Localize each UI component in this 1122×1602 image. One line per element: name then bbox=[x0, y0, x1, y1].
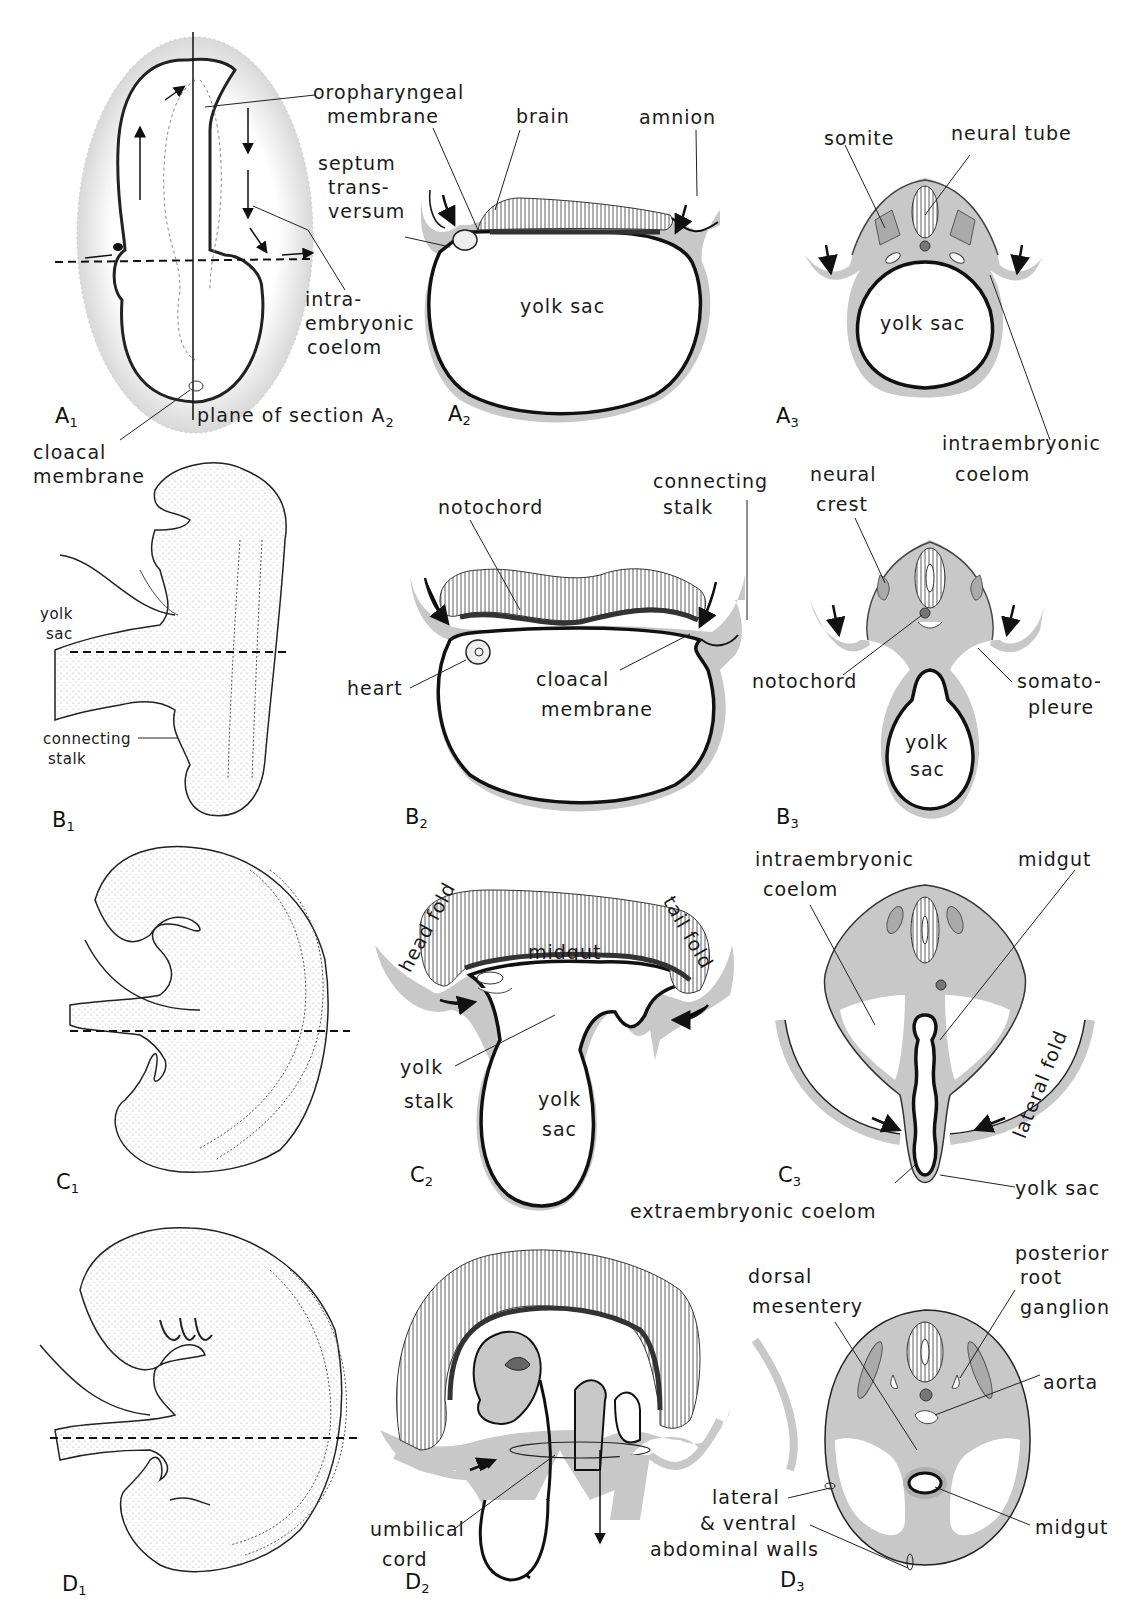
label-ganglion: ganglion bbox=[1020, 1296, 1110, 1319]
label-mesentery: mesentery bbox=[752, 1295, 863, 1318]
label-and-ventral: & ventral bbox=[700, 1512, 797, 1535]
label-crest-b3: crest bbox=[816, 493, 868, 516]
panel-b1-drawing bbox=[55, 463, 288, 816]
panel-c3-drawing bbox=[780, 870, 1090, 1187]
label-midgut-c3: midgut bbox=[1018, 848, 1091, 871]
label-sac-b3: sac bbox=[910, 758, 945, 781]
label-notochord-b3: notochord bbox=[752, 670, 857, 693]
label-cloacal-membrane: membrane bbox=[33, 465, 145, 488]
label-intraembryonic: intraembryonic bbox=[942, 432, 1101, 455]
label-yolk-sac-c3: yolk sac bbox=[1015, 1177, 1100, 1200]
label-midgut-c2: midgut bbox=[528, 941, 601, 964]
panel-d3-drawing bbox=[755, 1290, 1040, 1570]
panel-id-c2: C2 bbox=[410, 1163, 433, 1189]
label-abdominal-walls: abdominal walls bbox=[650, 1538, 819, 1561]
label-somato: somato- bbox=[1017, 670, 1102, 693]
embryo-folding-figure: A1 A2 A3 B1 B2 B3 C1 C2 C3 D1 D2 D3 orop… bbox=[0, 0, 1122, 1602]
label-cord: cord bbox=[382, 1548, 428, 1571]
label-umbilical: umbilical bbox=[370, 1518, 465, 1541]
label-midgut-d3: midgut bbox=[1035, 1516, 1108, 1539]
label-posterior: posterior bbox=[1015, 1242, 1109, 1265]
panel-b2-drawing bbox=[410, 500, 747, 811]
panel-id-b1: B1 bbox=[52, 808, 75, 834]
label-yolk-c2: yolk bbox=[538, 1088, 581, 1111]
panel-id-a2: A2 bbox=[448, 402, 471, 428]
label-root: root bbox=[1020, 1266, 1062, 1289]
label-aorta: aorta bbox=[1043, 1371, 1098, 1394]
panel-id-d1: D1 bbox=[62, 1572, 86, 1598]
panel-id-b2: B2 bbox=[405, 805, 428, 831]
panel-a3-drawing bbox=[805, 145, 1050, 440]
label-brain: brain bbox=[516, 105, 570, 128]
panel-a2-drawing bbox=[405, 128, 720, 423]
label-yolk-sac-a2: yolk sac bbox=[520, 295, 605, 318]
label-amnion: amnion bbox=[639, 106, 716, 129]
label-pleure: pleure bbox=[1028, 696, 1094, 719]
label-yolk-b3: yolk bbox=[905, 731, 948, 754]
label-stalk-b2: stalk bbox=[663, 496, 713, 519]
label-cloacal-membrane-b2: membrane bbox=[541, 698, 653, 721]
label-intra-coelom: coelom bbox=[307, 336, 382, 359]
label-connecting-b2: connecting bbox=[653, 470, 768, 493]
label-oropharyngeal-membrane: membrane bbox=[327, 105, 439, 128]
label-sac-b1: sac bbox=[46, 625, 73, 643]
label-intra: intra- bbox=[305, 288, 362, 311]
label-dorsal: dorsal bbox=[748, 1265, 812, 1288]
label-connecting-b1: connecting bbox=[43, 730, 131, 748]
label-heart: heart bbox=[347, 677, 403, 700]
label-yolk-stalk: yolk bbox=[400, 1056, 443, 1079]
label-extraembryonic-coelom: extraembryonic coelom bbox=[630, 1200, 876, 1223]
label-lateral: lateral bbox=[712, 1486, 780, 1509]
label-somite: somite bbox=[824, 127, 894, 150]
label-intraembryonic-coelom: coelom bbox=[955, 463, 1030, 486]
label-yolk-sac-a3: yolk sac bbox=[880, 312, 965, 335]
label-cloacal: cloacal bbox=[33, 441, 106, 464]
label-sac-c2: sac bbox=[542, 1118, 577, 1141]
label-plane-of-section: plane of section A2 bbox=[197, 404, 395, 434]
label-septum-versum: versum bbox=[328, 200, 405, 223]
panel-c1-drawing bbox=[70, 847, 350, 1173]
label-oropharyngeal: oropharyngeal bbox=[313, 81, 464, 104]
label-neural-b3: neural bbox=[810, 463, 877, 486]
panel-id-d2: D2 bbox=[405, 1570, 429, 1596]
panel-d1-drawing bbox=[40, 1228, 360, 1572]
panel-id-c1: C1 bbox=[56, 1170, 79, 1196]
figure-drawings bbox=[0, 0, 1122, 1602]
label-notochord-b2: notochord bbox=[438, 496, 543, 519]
panel-id-c3: C3 bbox=[778, 1163, 801, 1189]
label-coelom-c3: coelom bbox=[763, 878, 838, 901]
panel-id-d3: D3 bbox=[780, 1568, 804, 1594]
label-cloacal-b2: cloacal bbox=[536, 668, 609, 691]
label-yolk-stalk-2: stalk bbox=[404, 1090, 454, 1113]
panel-a1-drawing bbox=[55, 32, 345, 440]
label-intraembryonic-c3: intraembryonic bbox=[755, 848, 914, 871]
label-yolk-b1: yolk bbox=[40, 605, 73, 623]
panel-id-b3: B3 bbox=[776, 805, 799, 831]
label-septum: septum bbox=[318, 152, 396, 175]
label-stalk-b1: stalk bbox=[48, 750, 86, 768]
label-intra-embryonic: embryonic bbox=[305, 312, 415, 335]
label-septum-trans: trans- bbox=[328, 176, 390, 199]
panel-id-a1: A1 bbox=[55, 404, 78, 430]
label-neural-tube: neural tube bbox=[951, 122, 1072, 145]
panel-id-a3: A3 bbox=[776, 404, 799, 430]
